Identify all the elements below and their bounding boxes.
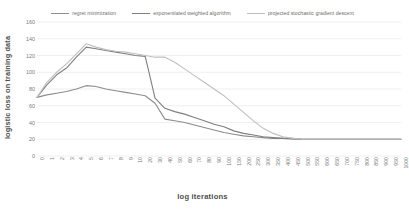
x-tick-label: 20 [147,157,153,163]
x-tick-label: 8 [118,157,124,160]
y-tick-label: 140 [26,36,35,42]
y-tick-label: 100 [26,69,35,75]
x-tick-label: 1000 [403,157,409,169]
x-tick-label: 60 [187,157,193,163]
legend-entry: regret minimization [51,10,116,16]
x-tick-label: 4 [78,157,84,160]
x-tick-label: 6 [98,157,104,160]
legend-label: exponentiated weighted algorithm [153,10,231,16]
x-tick-label: 150 [236,157,242,166]
y-axis-title-text: logistic loss on training data [4,35,13,138]
x-tick-label: 80 [206,157,212,163]
x-tick-label: 750 [354,157,360,166]
y-axis-title: logistic loss on training data [2,22,14,152]
x-tick-label: 250 [255,157,261,166]
x-tick-label: 600 [324,157,330,166]
y-axis-tick-labels: 020406080100120140160 [14,22,36,156]
x-tick-label: 950 [393,157,399,166]
x-tick-label: 400 [285,157,291,166]
x-tick-label: 7 [108,157,114,160]
series-line-0 [37,86,401,140]
y-tick-label: 20 [29,136,35,142]
legend-label: projected stochastic gradient descent [268,10,354,16]
legend-entry: projected stochastic gradient descent [247,10,354,16]
y-tick-label: 0 [32,153,35,159]
x-axis-tick-labels: 0123456789102030405060708090100150200250… [37,157,401,191]
y-tick-label: 80 [29,86,35,92]
x-tick-label: 3 [69,157,75,160]
x-tick-label: 800 [364,157,370,166]
x-axis-title: log iterations [0,192,405,201]
plot-area [37,22,401,156]
y-tick-label: 60 [29,103,35,109]
legend-swatch-icon [51,13,69,14]
y-tick-label: 120 [26,53,35,59]
x-tick-label: 700 [344,157,350,166]
x-tick-label: 50 [177,157,183,163]
x-tick-label: 450 [295,157,301,166]
x-tick-label: 0 [39,157,45,160]
plot-svg [37,22,401,156]
legend-label: regret minimization [72,10,116,16]
x-tick-label: 30 [157,157,163,163]
x-tick-label: 2 [59,157,65,160]
x-tick-label: 300 [265,157,271,166]
x-tick-label: 5 [88,157,94,160]
x-tick-label: 100 [226,157,232,166]
x-tick-label: 1 [49,157,55,160]
x-tick-label: 900 [383,157,389,166]
x-tick-label: 90 [216,157,222,163]
x-tick-label: 550 [314,157,320,166]
x-tick-label: 350 [275,157,281,166]
series-line-1 [37,47,401,139]
x-tick-label: 40 [167,157,173,163]
x-tick-label: 70 [196,157,202,163]
legend-swatch-icon [247,13,265,14]
x-tick-label: 850 [373,157,379,166]
x-tick-label: 9 [128,157,134,160]
chart-legend: regret minimizationexponentiated weighte… [0,6,405,20]
x-tick-label: 200 [246,157,252,166]
y-tick-label: 40 [29,120,35,126]
legend-entry: exponentiated weighted algorithm [132,10,231,16]
x-tick-label: 10 [137,157,143,163]
y-tick-label: 160 [26,19,35,25]
series-lines [37,44,401,139]
x-tick-label: 500 [305,157,311,166]
gridlines [37,22,401,156]
legend-swatch-icon [132,13,150,14]
x-tick-label: 650 [334,157,340,166]
